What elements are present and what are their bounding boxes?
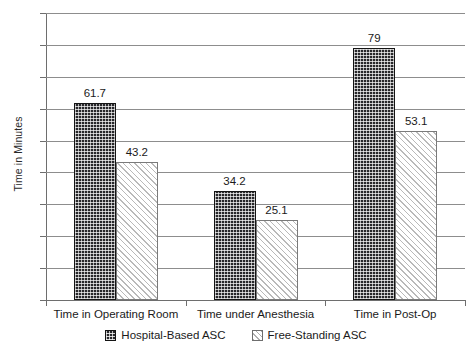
legend-item: Hospital-Based ASC bbox=[105, 329, 225, 341]
x-axis-tick-mark bbox=[465, 300, 466, 306]
gridline bbox=[46, 45, 465, 46]
bar-value-label: 53.1 bbox=[381, 116, 451, 128]
legend-label: Free-Standing ASC bbox=[268, 329, 367, 341]
legend-label: Hospital-Based ASC bbox=[121, 329, 225, 341]
x-axis-tick-mark bbox=[46, 300, 47, 306]
chart-legend: Hospital-Based ASCFree-Standing ASC bbox=[0, 329, 472, 341]
bar bbox=[74, 103, 116, 300]
plot-area: 61.734.27943.225.153.1 bbox=[46, 13, 465, 300]
dark-dotted-swatch-icon bbox=[105, 330, 116, 341]
bar-value-label: 34.2 bbox=[200, 176, 270, 188]
x-axis-tick-mark bbox=[186, 300, 187, 306]
bar-value-label: 25.1 bbox=[242, 205, 312, 217]
bar bbox=[256, 220, 298, 300]
bar bbox=[353, 48, 395, 300]
y-axis-title: Time in Minutes bbox=[12, 74, 24, 234]
x-axis-tick-mark bbox=[325, 300, 326, 306]
bar-chart: Time in Minutes 9080706050403020100 61.7… bbox=[0, 0, 472, 347]
bar bbox=[395, 131, 437, 300]
gridline bbox=[46, 300, 465, 301]
legend-item: Free-Standing ASC bbox=[252, 329, 367, 341]
bar-value-label: 61.7 bbox=[60, 88, 130, 100]
bar-value-label: 79 bbox=[339, 33, 409, 45]
diagonal-hatch-swatch-icon bbox=[252, 330, 263, 341]
gridline bbox=[46, 13, 465, 14]
bar-value-label: 43.2 bbox=[102, 147, 172, 159]
bar bbox=[116, 162, 158, 300]
gridline bbox=[46, 77, 465, 78]
x-axis-category-label: Time in Post-Op bbox=[305, 308, 472, 320]
